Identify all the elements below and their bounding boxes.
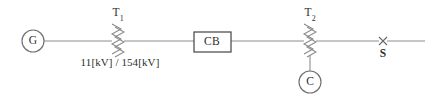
generator-label: G [29, 35, 37, 47]
single-line-diagram: G T1 11[kV] / 154[kV] CB T2 C S [0, 0, 438, 101]
load-label: C [306, 76, 314, 88]
t2-label-subscript: 2 [312, 14, 316, 23]
transformer-t1-rating-label: 11[kV] / 154[kV] [81, 57, 160, 68]
t1-label-main: T [112, 6, 119, 18]
switch-x-icon[interactable] [379, 37, 387, 45]
transformer-t1-label: T1 [112, 7, 123, 21]
t1-label-subscript: 1 [120, 14, 124, 23]
switch-label: S [380, 48, 386, 60]
transformer-t1-symbol[interactable] [112, 24, 124, 57]
circuit-breaker-label: CB [204, 36, 220, 48]
t2-label-main: T [304, 6, 311, 18]
transformer-t2-symbol[interactable] [304, 24, 316, 57]
diagram-canvas [0, 0, 438, 101]
transformer-t2-label: T2 [304, 7, 315, 21]
